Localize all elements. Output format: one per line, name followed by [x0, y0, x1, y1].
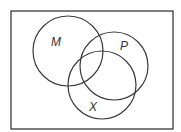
set-p-label: P — [120, 39, 128, 53]
set-m-circle — [33, 16, 103, 86]
set-m-label: M — [51, 35, 61, 49]
venn-diagram: M P X — [0, 0, 181, 132]
set-p-circle — [80, 32, 148, 100]
set-x-label: X — [88, 100, 98, 114]
